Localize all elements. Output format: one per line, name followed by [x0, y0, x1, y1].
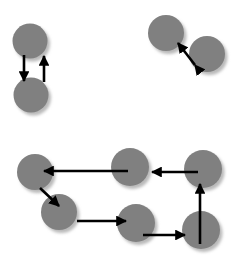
node-circle-tl-upper: [13, 24, 48, 59]
diagram-svg: [0, 0, 232, 263]
node-circle-b-left-lower: [41, 194, 77, 230]
node-circle-b-mid-top: [111, 148, 149, 186]
node-circle-tl-lower: [14, 78, 49, 113]
figure-canvas: [0, 0, 232, 263]
node-circle-b-right-top: [184, 150, 222, 188]
node-circle-tr-lower-right: [189, 36, 225, 72]
